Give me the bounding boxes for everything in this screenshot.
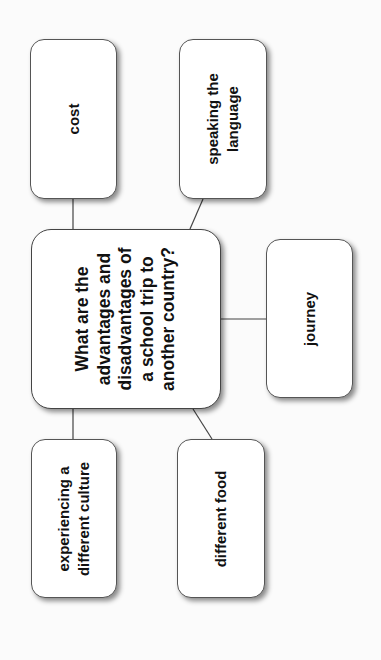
- connector-speaking-the-language: [190, 199, 203, 229]
- node-label: journey: [300, 291, 320, 345]
- central-question-label: What are the advantages and disadvantage…: [72, 247, 180, 391]
- central-question-node: What are the advantages and disadvantage…: [31, 229, 221, 409]
- node-speaking-the-language: speaking the language: [179, 39, 267, 199]
- node-cost: cost: [30, 39, 117, 199]
- node-experiencing-a-different-culture: experiencing a different culture: [31, 439, 117, 598]
- node-different-food: different food: [177, 439, 265, 598]
- connector-different-food: [193, 409, 212, 439]
- node-journey: journey: [266, 239, 353, 398]
- node-label: speaking the language: [203, 73, 243, 165]
- node-label: different food: [211, 470, 231, 567]
- node-label: cost: [64, 104, 84, 135]
- node-label: experiencing a different culture: [54, 461, 94, 575]
